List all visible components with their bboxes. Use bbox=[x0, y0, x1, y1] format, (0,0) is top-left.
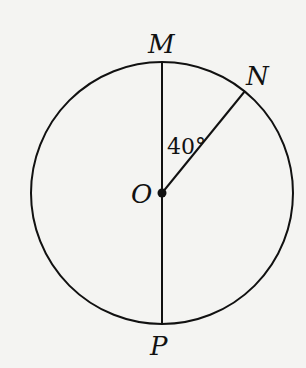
circle-diagram: M N O P 40° bbox=[0, 0, 306, 368]
label-m: M bbox=[147, 29, 176, 59]
angle-label: 40° bbox=[167, 134, 206, 159]
center-point bbox=[158, 189, 167, 198]
label-p: P bbox=[149, 331, 168, 361]
label-o: O bbox=[131, 179, 152, 209]
label-n: N bbox=[245, 61, 270, 91]
